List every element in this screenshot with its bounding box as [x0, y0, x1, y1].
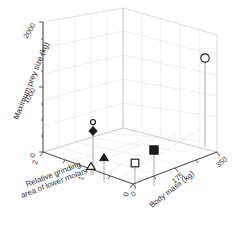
point-filled-square — [150, 146, 158, 154]
x-tick-350: 350 — [214, 155, 229, 170]
point-open-square — [131, 159, 139, 167]
scatter-3d-plot: 2000 1000 0 2 1 0 0 175 350 Maximum prey… — [0, 0, 239, 240]
point-open-triangle — [87, 163, 95, 170]
x-tick-0: 0 — [129, 189, 138, 199]
point-open-circle-small — [91, 120, 96, 125]
x-axis-title: Body mass (kg) — [148, 169, 197, 210]
point-filled-diamond — [89, 127, 97, 136]
z-tick-2000: 2000 — [21, 21, 37, 40]
z-tick-0: 0 — [28, 151, 38, 159]
chart-figure: 2000 1000 0 2 1 0 0 175 350 Maximum prey… — [0, 0, 239, 240]
data-points — [87, 54, 209, 170]
z-axis-title: Maximum prey size (kg) — [12, 40, 51, 120]
point-open-circle-high — [201, 54, 209, 62]
right-back-wall — [123, 8, 217, 152]
point-filled-triangle — [100, 154, 109, 161]
left-back-wall — [43, 8, 123, 152]
